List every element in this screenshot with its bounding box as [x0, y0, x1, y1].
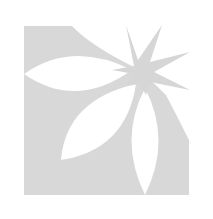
flower-logo: [0, 0, 213, 219]
flower-logo-graphic: [0, 0, 213, 219]
